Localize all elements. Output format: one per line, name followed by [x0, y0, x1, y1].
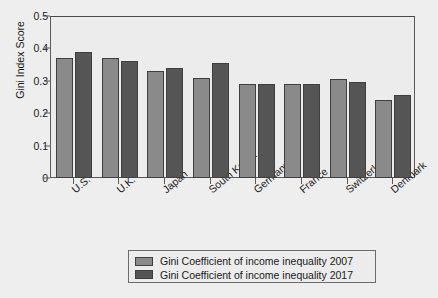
- bar: [349, 82, 366, 178]
- bar: [258, 84, 275, 178]
- legend-swatch-2007: [135, 257, 153, 266]
- bar: [56, 58, 73, 178]
- bar-group: [369, 16, 415, 178]
- bar: [102, 58, 119, 178]
- bar-group: [233, 16, 279, 178]
- bar: [212, 63, 229, 178]
- bar: [121, 61, 138, 178]
- bar: [193, 78, 210, 178]
- bar-group: [50, 16, 96, 178]
- y-tick-label: 0.3: [8, 75, 48, 87]
- bar: [394, 95, 411, 178]
- y-tick-label: 0.5: [8, 10, 48, 22]
- bar-group: [141, 16, 187, 178]
- legend-item-2007: Gini Coefficient of income inequality 20…: [135, 255, 369, 268]
- bar: [147, 71, 164, 178]
- legend-swatch-2017: [135, 270, 153, 279]
- bar-group: [187, 16, 233, 178]
- bar: [375, 100, 392, 178]
- bar: [166, 68, 183, 178]
- legend: Gini Coefficient of income inequality 20…: [128, 250, 376, 283]
- bar-group: [96, 16, 142, 178]
- bar: [303, 84, 320, 178]
- legend-label-2007: Gini Coefficient of income inequality 20…: [160, 255, 353, 267]
- bar: [239, 84, 256, 178]
- legend-label-2017: Gini Coefficient of income inequality 20…: [160, 269, 353, 281]
- y-tick-label: 0: [8, 172, 48, 184]
- bars-layer: [50, 16, 415, 178]
- gini-index-bar-chart: Gini Index Score 0.50.40.30.20.10 U.S.U.…: [0, 0, 438, 298]
- bar: [330, 79, 347, 178]
- y-tick-label: 0.2: [8, 107, 48, 119]
- bar: [284, 84, 301, 178]
- bar: [75, 52, 92, 178]
- legend-item-2017: Gini Coefficient of income inequality 20…: [135, 268, 369, 281]
- bar-group: [278, 16, 324, 178]
- y-tick-label: 0.1: [8, 140, 48, 152]
- bar-group: [324, 16, 370, 178]
- y-tick-label: 0.4: [8, 42, 48, 54]
